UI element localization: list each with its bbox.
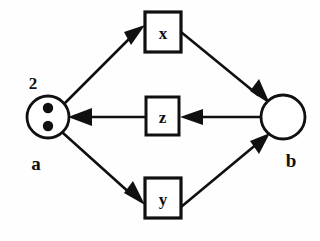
arc-y-to-b-line (181, 143, 258, 207)
transition-y[interactable]: y (145, 178, 181, 218)
arc-a-to-x-line (64, 35, 133, 104)
arc-z-to-a-arrowhead (68, 108, 92, 126)
arc-x-to-b (181, 32, 270, 104)
transition-y-label: y (159, 190, 168, 209)
arc-z-to-a (68, 108, 146, 126)
place-a-label: a (31, 153, 41, 174)
petri-net-canvas: 2 a b x z y (0, 0, 320, 241)
arc-y-to-b (181, 133, 270, 207)
arc-a-to-y-arrowhead (124, 181, 145, 205)
transition-z-label: z (159, 108, 167, 127)
arc-a-to-x (64, 25, 145, 104)
arc-y-to-b-arrowhead (250, 133, 270, 154)
place-b[interactable]: b (261, 95, 305, 171)
arc-a-to-y (63, 133, 145, 205)
transition-x[interactable]: x (145, 12, 181, 52)
place-a-circle[interactable] (27, 96, 69, 138)
place-a-token-2 (43, 121, 53, 131)
arc-b-to-z-arrowhead (180, 109, 203, 125)
arc-x-to-b-line (181, 32, 258, 95)
petri-net-diagram: 2 a b x z y (0, 0, 320, 241)
arc-a-to-y-line (63, 133, 132, 195)
place-b-circle[interactable] (261, 95, 305, 139)
place-a[interactable]: 2 a (27, 74, 69, 174)
place-a-token-1 (43, 103, 53, 113)
transition-z[interactable]: z (146, 97, 179, 135)
place-b-label: b (286, 150, 297, 171)
arc-b-to-z (180, 109, 261, 125)
place-a-token-count: 2 (29, 74, 38, 93)
transition-x-label: x (159, 24, 168, 43)
